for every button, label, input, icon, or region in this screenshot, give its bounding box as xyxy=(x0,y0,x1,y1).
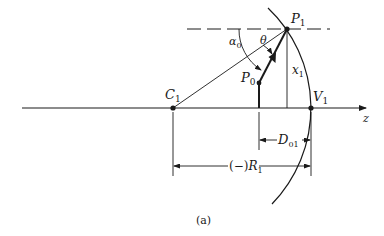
label-C1: C1 xyxy=(165,87,181,104)
label-V1: V1 xyxy=(313,89,328,106)
point-P0 xyxy=(257,81,262,86)
point-P1 xyxy=(284,26,289,31)
point-C1 xyxy=(170,105,175,110)
label-x1: x1 xyxy=(292,63,304,79)
figure-caption: (a) xyxy=(196,214,211,227)
label-D01: D01 xyxy=(277,132,299,149)
label-P0: P0 xyxy=(240,70,256,87)
label-R1: (−)R1 xyxy=(229,159,263,175)
label-P1: P1 xyxy=(290,11,305,28)
label-theta: θ xyxy=(260,34,267,47)
label-z-axis: z xyxy=(362,112,369,125)
optics-diagram: P1 P0 C1 V1 x1 α0 θ z D01 (−)R1 (a) xyxy=(0,0,384,236)
point-V1 xyxy=(308,105,313,110)
